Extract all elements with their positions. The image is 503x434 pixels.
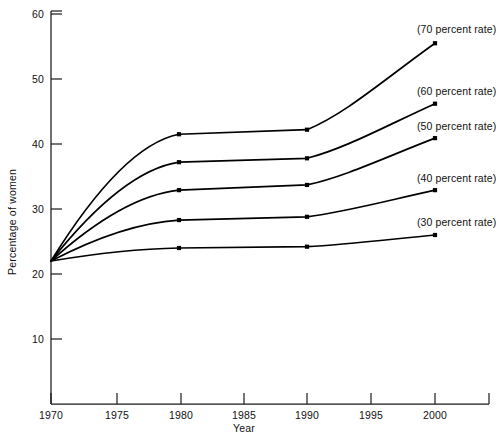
series-label-60: (60 percent rate) [417, 85, 496, 97]
data-point-marker [177, 160, 181, 164]
x-tick-label-1980: 1980 [169, 409, 193, 421]
data-point-marker [305, 245, 309, 249]
y-axis-title: Percentage of women [6, 169, 18, 275]
x-tick-label-1985: 1985 [232, 409, 256, 421]
x-tick-label-2000: 2000 [423, 409, 447, 421]
series-label-70: (70 percent rate) [417, 23, 496, 35]
y-tick-label-10: 10 [32, 333, 44, 345]
x-tick-label-1975: 1975 [105, 409, 129, 421]
data-point-marker [433, 136, 437, 140]
data-point-marker [305, 156, 309, 160]
data-point-marker [177, 132, 181, 136]
x-tick-label-1970: 1970 [39, 409, 63, 421]
data-point-marker [177, 188, 181, 192]
y-tick-label-40: 40 [32, 138, 44, 150]
data-point-marker [433, 41, 437, 45]
series-label-50: (50 percent rate) [417, 120, 496, 132]
y-tick-label-20: 20 [32, 268, 44, 280]
data-point-marker [433, 188, 437, 192]
line-chart-canvas: 60 50 40 30 20 10 1970 1975 1980 1985 19… [0, 0, 503, 434]
y-tick-label-50: 50 [32, 73, 44, 85]
series-label-30: (30 percent rate) [417, 216, 496, 228]
data-point-marker [433, 233, 437, 237]
data-point-marker [305, 183, 309, 187]
data-point-marker [177, 246, 181, 250]
data-point-marker [177, 218, 181, 222]
series-label-40: (40 percent rate) [417, 172, 496, 184]
x-axis-title: Year [233, 422, 255, 434]
data-point-marker [305, 215, 309, 219]
data-point-marker [433, 102, 437, 106]
y-tick-label-30: 30 [32, 203, 44, 215]
data-point-marker [305, 128, 309, 132]
x-tick-label-1990: 1990 [295, 409, 319, 421]
chart-figure: 60 50 40 30 20 10 1970 1975 1980 1985 19… [0, 0, 503, 434]
x-tick-label-1995: 1995 [359, 409, 383, 421]
y-tick-label-60: 60 [32, 8, 44, 20]
